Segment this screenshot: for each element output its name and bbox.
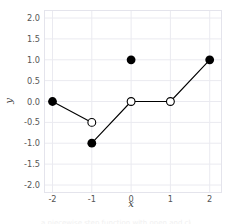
ytick-label-2.0: 2.0 [14, 14, 40, 22]
filled-marker [87, 139, 96, 148]
open-marker [127, 98, 135, 106]
ytick-label-neg1.0: -1.0 [14, 139, 40, 147]
ytick-label-neg0.5: -0.5 [14, 118, 40, 126]
ytick-label-1.5: 1.5 [14, 35, 40, 43]
filled-marker [48, 97, 57, 106]
y-axis-label: y [4, 98, 14, 104]
ytick-label-1.0: 1.0 [14, 56, 40, 64]
open-marker [88, 119, 96, 127]
ytick-label-0.0: 0.0 [14, 97, 40, 105]
clipped-caption: a piecewise step function with open and … [41, 216, 191, 224]
ytick-label-neg2.0: -2.0 [14, 181, 40, 189]
filled-marker [127, 55, 136, 64]
ytick-label-0.5: 0.5 [14, 76, 40, 84]
filled-marker [205, 55, 214, 64]
xtick-label-1: 1 [168, 195, 173, 203]
open-marker [167, 98, 175, 106]
xtick-label-2: 2 [207, 195, 212, 203]
x-axis-label: x [128, 199, 134, 209]
xtick-label-neg1: -1 [88, 195, 96, 203]
xtick-label-neg2: -2 [48, 195, 56, 203]
figure: 2.0 1.5 1.0 0.5 0.0 -0.5 -1.0 -1.5 -2.0 … [0, 0, 233, 224]
ytick-label-neg1.5: -1.5 [14, 160, 40, 168]
